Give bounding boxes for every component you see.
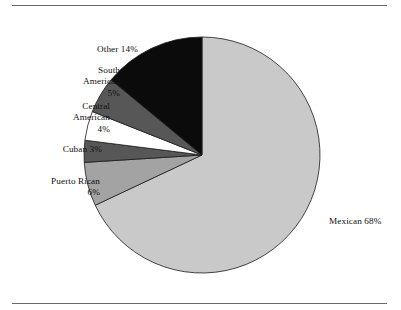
- slice-label-central-american: Central American 4%: [28, 101, 110, 135]
- slice-label-other: Other 14%: [52, 44, 138, 55]
- slice-label-south-american: South American 5%: [38, 65, 120, 99]
- slice-label-cuban: Cuban 3%: [16, 144, 102, 155]
- pie-chart-figure: Other 14% South American 5% Central Amer…: [0, 0, 401, 310]
- slice-label-puerto-rican: Puerto Rican 6%: [4, 176, 100, 199]
- slice-label-mexican: Mexican 68%: [329, 216, 399, 227]
